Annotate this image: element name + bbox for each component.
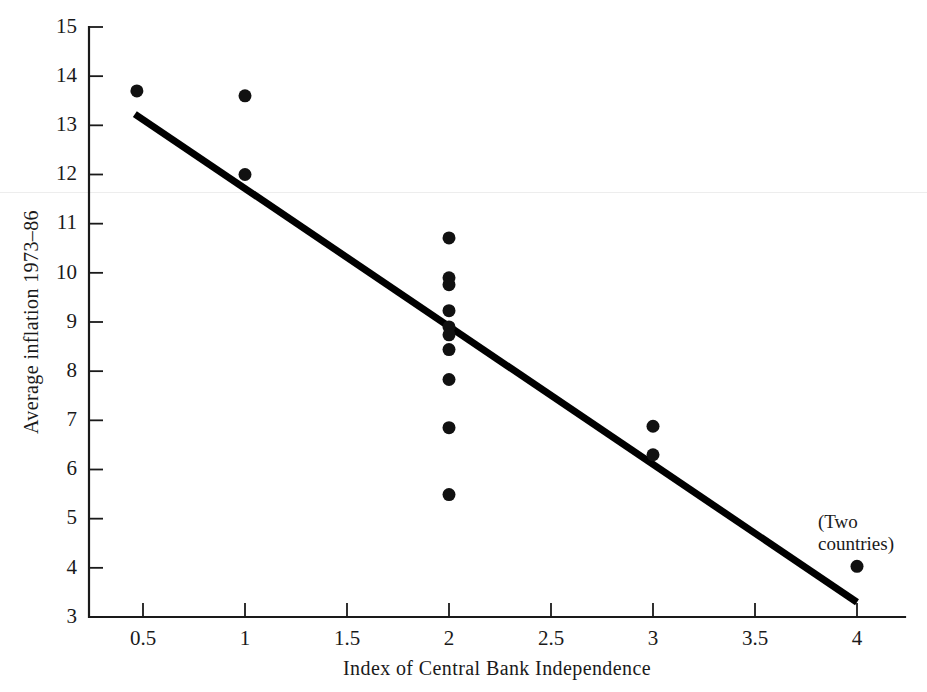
- y-tick-label: 12: [56, 161, 77, 185]
- data-point: [647, 448, 660, 461]
- plot-area: 3456789101112131415 0.511.522.533.54 (Tw…: [0, 0, 927, 692]
- y-tick-label: 11: [57, 210, 77, 234]
- x-axis-ticks: 0.511.522.533.54: [130, 603, 863, 650]
- y-tick-label: 10: [56, 260, 77, 284]
- y-tick-label: 3: [67, 604, 78, 628]
- y-tick-label: 7: [67, 407, 78, 431]
- annotation-two-countries: (Two countries): [818, 511, 894, 555]
- x-tick-label: 3.5: [742, 626, 768, 650]
- x-tick-label: 1: [240, 626, 251, 650]
- data-point: [443, 343, 456, 356]
- x-tick-label: 2.5: [538, 626, 564, 650]
- axes: [89, 27, 905, 617]
- data-point: [443, 278, 456, 291]
- data-point: [443, 304, 456, 317]
- data-point: [647, 420, 660, 433]
- x-tick-label: 2: [444, 626, 455, 650]
- data-point: [851, 560, 864, 573]
- x-tick-label: 3: [648, 626, 659, 650]
- data-point: [443, 231, 456, 244]
- data-point: [239, 89, 252, 102]
- x-axis-title: Index of Central Bank Independence: [343, 657, 651, 680]
- data-point: [443, 421, 456, 434]
- regression-fit-line: [135, 114, 857, 602]
- data-point: [130, 84, 143, 97]
- y-tick-label: 14: [56, 63, 78, 87]
- y-axis-ticks: 3456789101112131415: [56, 14, 103, 628]
- y-axis-title: Average inflation 1973–86: [20, 210, 43, 434]
- annotation-line-1: (Two: [818, 511, 858, 533]
- data-point: [443, 373, 456, 386]
- annotation-line-2: countries): [818, 533, 894, 555]
- y-tick-label: 15: [56, 14, 77, 38]
- x-tick-label: 1.5: [334, 626, 360, 650]
- x-tick-label: 0.5: [130, 626, 156, 650]
- data-point: [239, 168, 252, 181]
- data-point: [443, 328, 456, 341]
- y-tick-label: 5: [67, 505, 78, 529]
- axis-lines: [89, 27, 905, 617]
- y-tick-label: 13: [56, 112, 77, 136]
- y-tick-label: 6: [67, 456, 78, 480]
- y-tick-label: 8: [67, 358, 78, 382]
- scatter-chart: 3456789101112131415 0.511.522.533.54 (Tw…: [0, 0, 927, 692]
- y-tick-label: 9: [67, 309, 78, 333]
- data-point-group: [130, 84, 863, 572]
- x-tick-label: 4: [852, 626, 863, 650]
- data-point: [443, 488, 456, 501]
- y-tick-label: 4: [67, 555, 78, 579]
